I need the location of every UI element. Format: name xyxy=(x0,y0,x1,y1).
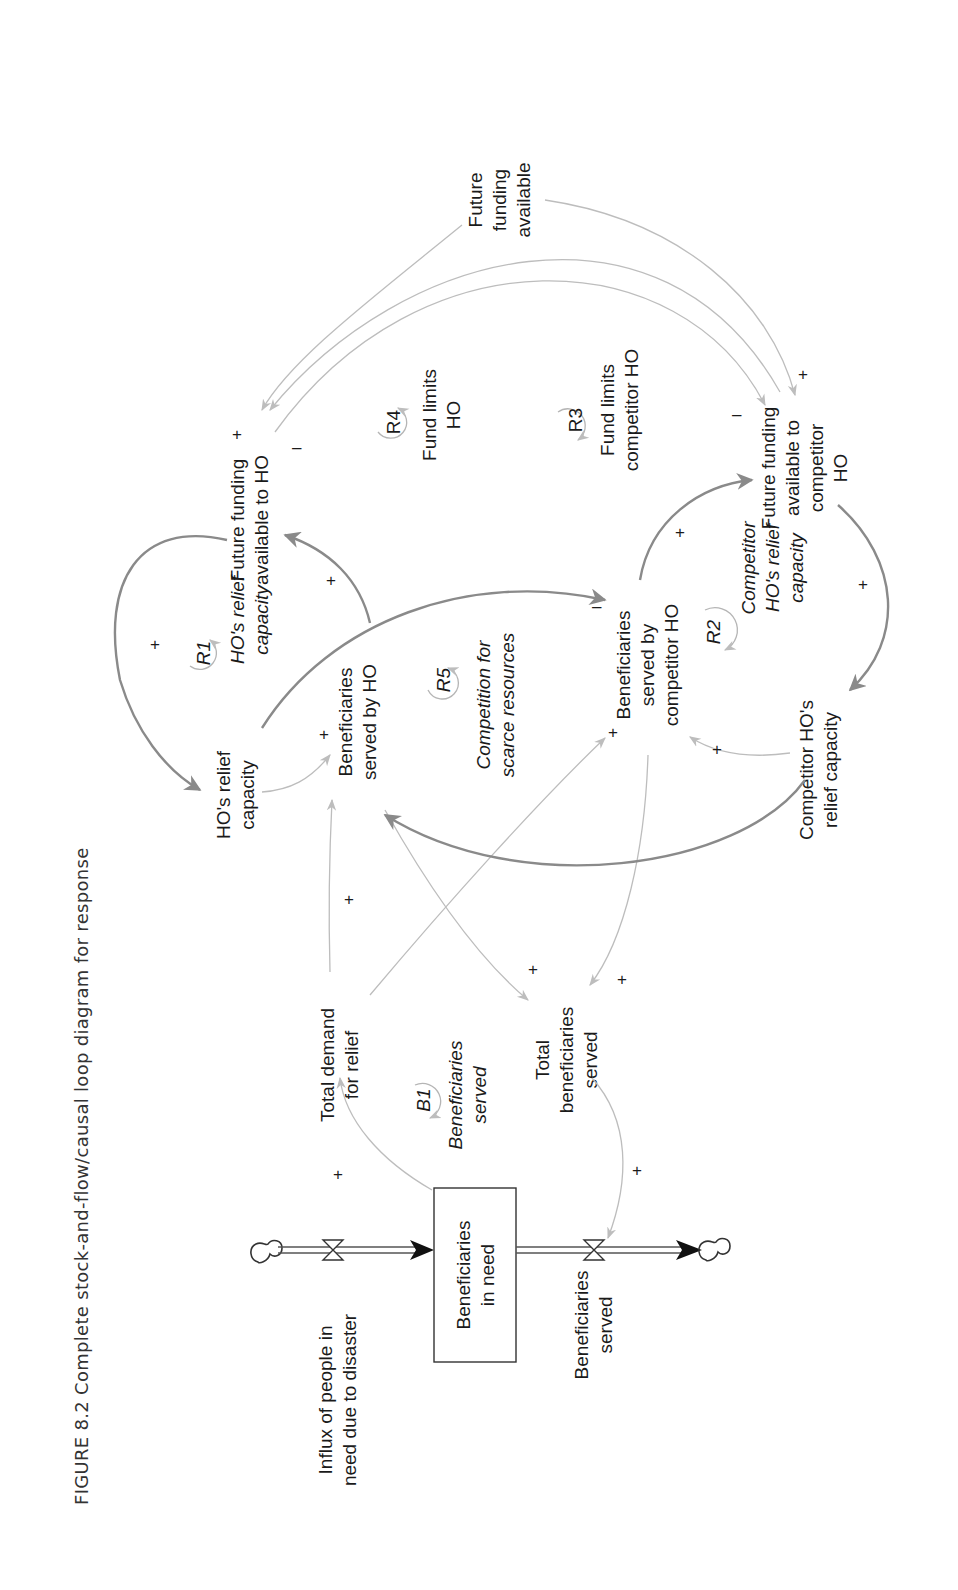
var-funding-ho-line1: Future funding xyxy=(227,459,248,582)
var-served-comp-line2: served by xyxy=(637,623,658,706)
outflow-label-1: Beneficiaries xyxy=(571,1271,592,1380)
var-total-served-line1: Total xyxy=(532,1040,553,1080)
var-future-funding-competitor[interactable]: Future funding available to competitor H… xyxy=(758,407,851,530)
link-comp-capacity-to-served-ho xyxy=(385,780,805,865)
stock-label-1: Beneficiaries xyxy=(453,1221,474,1330)
var-funding-comp-line4: HO xyxy=(830,454,851,483)
pol-served-ho-total: + xyxy=(528,960,538,979)
pol-served-comp-total: + xyxy=(617,970,627,989)
figure-caption: FIGURE 8.2 Complete stock-and-flow/causa… xyxy=(71,848,92,1506)
var-ho-relief-capacity[interactable]: HO's relief capacity xyxy=(213,750,258,839)
svg-text:R1: R1 xyxy=(193,641,214,665)
svg-text:Competitor: Competitor xyxy=(738,521,759,615)
pol-funding-ho-total: + xyxy=(232,425,242,444)
pol-demand-servedcomp: + xyxy=(608,723,618,742)
var-comp-capacity-line1: Competitor HO's xyxy=(796,700,817,840)
pol-funding-comp-total: + xyxy=(798,365,808,384)
svg-text:capacity: capacity xyxy=(251,584,272,655)
var-funding-ho-line2: available to HO xyxy=(251,455,272,585)
link-ho-capacity-to-served-ho xyxy=(262,755,330,792)
svg-text:capacity: capacity xyxy=(786,532,807,603)
svg-text:R3: R3 xyxy=(565,408,586,432)
pol-demand-servedho: + xyxy=(344,890,354,909)
var-funding-total-line3: available xyxy=(513,163,534,238)
svg-text:HO's relief: HO's relief xyxy=(227,574,248,664)
stock-flow-diagram: FIGURE 8.2 Complete stock-and-flow/causa… xyxy=(0,0,958,1590)
svg-text:B1: B1 xyxy=(413,1088,434,1111)
link-funding-comp-to-comp-capacity xyxy=(838,505,888,690)
pol-funding-ho-minus: – xyxy=(292,438,302,457)
var-served-comp-line3: competitor HO xyxy=(661,604,682,726)
var-comp-capacity-line2: relief capacity xyxy=(820,711,841,828)
svg-text:Fund limits: Fund limits xyxy=(419,369,440,461)
inflow-pipe xyxy=(278,1240,434,1260)
var-total-served-line3: served xyxy=(580,1031,601,1088)
link-served-comp-to-total-served xyxy=(590,755,648,985)
var-total-beneficiaries-served[interactable]: Total beneficiaries served xyxy=(532,1007,601,1114)
var-funding-comp-line3: competitor xyxy=(806,423,827,512)
svg-text:competitor HO: competitor HO xyxy=(621,349,642,471)
var-total-served-line2: beneficiaries xyxy=(556,1007,577,1114)
var-total-demand-line1: Total demand xyxy=(317,1008,338,1122)
link-comp-capacity-to-served-comp xyxy=(690,737,790,755)
var-ho-capacity-line2: capacity xyxy=(237,760,258,830)
var-future-funding-ho[interactable]: Future funding available to HO xyxy=(227,455,272,585)
link-funding-ho-to-funding-comp xyxy=(275,281,765,432)
pol-total-outflow: + xyxy=(632,1161,642,1180)
var-future-funding-available[interactable]: Future funding available xyxy=(465,163,534,238)
outflow-label-2: served xyxy=(595,1296,616,1353)
svg-text:HO's relief: HO's relief xyxy=(762,522,783,612)
pol-servedcomp-fundingcomp: + xyxy=(675,523,685,542)
pol-capacity-servedcomp-minus: – xyxy=(592,597,602,616)
svg-text:served: served xyxy=(469,1065,490,1123)
svg-text:Competition for: Competition for xyxy=(473,640,494,770)
inflow-label-2: need due to disaster xyxy=(339,1313,360,1486)
var-total-demand[interactable]: Total demand for relief xyxy=(317,1008,362,1122)
svg-text:R5: R5 xyxy=(433,667,454,692)
inflow-valve-icon[interactable] xyxy=(323,1240,343,1260)
pol-stock-demand: + xyxy=(333,1165,343,1184)
stock-beneficiaries-in-need[interactable]: Beneficiaries in need xyxy=(434,1188,516,1362)
pol-fundingcomp-capacity: + xyxy=(858,575,868,594)
var-funding-comp-line1: Future funding xyxy=(758,407,779,530)
pol-funding-capacity: + xyxy=(150,635,160,654)
outflow-valve-icon[interactable] xyxy=(584,1240,604,1260)
var-served-comp-line1: Beneficiaries xyxy=(613,611,634,720)
link-funding-total-to-funding-comp xyxy=(545,200,795,395)
var-funding-comp-line2: available to xyxy=(782,420,803,516)
loop-R1: R1 HO's relief capacity xyxy=(190,574,272,669)
sink-cloud-icon xyxy=(699,1239,730,1261)
source-cloud-icon xyxy=(251,1241,282,1263)
svg-text:Beneficiaries: Beneficiaries xyxy=(445,1040,466,1149)
svg-text:R2: R2 xyxy=(703,619,724,644)
var-total-demand-line2: for relief xyxy=(341,1030,362,1099)
link-served-comp-to-funding-comp xyxy=(640,480,752,580)
var-ho-capacity-line1: HO's relief xyxy=(213,750,234,839)
pol-servedho-funding: + xyxy=(326,571,336,590)
svg-text:scarce resources: scarce resources xyxy=(497,632,518,777)
loop-R2: R2 Competitor HO's relief capacity xyxy=(703,521,807,650)
var-served-ho-line2: served by HO xyxy=(359,664,380,780)
loop-R5: R5 Competition for scarce resources xyxy=(428,632,518,777)
svg-text:R4: R4 xyxy=(383,409,404,434)
inflow-label-1: Influx of people in xyxy=(315,1326,336,1475)
pol-compcap-servedcomp: + xyxy=(712,740,722,759)
outflow-pipe xyxy=(516,1240,702,1260)
var-beneficiaries-served-by-competitor[interactable]: Beneficiaries served by competitor HO xyxy=(613,604,682,726)
link-total-demand-to-served-ho xyxy=(329,800,332,972)
var-funding-total-line1: Future xyxy=(465,173,486,228)
stock-label-2: in need xyxy=(477,1244,498,1306)
pol-capacity-servedho: + xyxy=(319,725,329,744)
svg-text:Fund limits: Fund limits xyxy=(597,364,618,456)
loop-B1: B1 Beneficiaries served xyxy=(413,1040,490,1149)
loop-R4: R4 Fund limits HO xyxy=(378,369,464,461)
link-ho-capacity-to-served-comp xyxy=(262,591,605,728)
var-competitor-relief-capacity[interactable]: Competitor HO's relief capacity xyxy=(796,700,841,840)
var-funding-total-line2: funding xyxy=(489,169,510,231)
var-served-ho-line1: Beneficiaries xyxy=(335,668,356,777)
var-beneficiaries-served-by-ho[interactable]: Beneficiaries served by HO xyxy=(335,664,380,780)
svg-text:HO: HO xyxy=(443,401,464,430)
link-total-served-to-outflow xyxy=(592,1078,623,1238)
pol-funding-comp-minus: – xyxy=(732,405,742,424)
loop-R3: R3 Fund limits competitor HO xyxy=(558,349,642,471)
